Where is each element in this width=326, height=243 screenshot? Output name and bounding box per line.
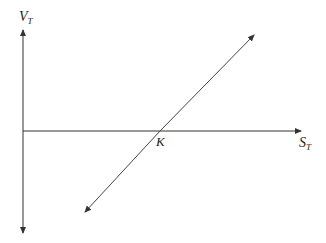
payoff-diagram: VT ST K — [0, 0, 326, 243]
y-axis-label: VT — [19, 9, 34, 26]
strike-label: K — [155, 134, 166, 149]
payoff-line-up — [160, 35, 254, 131]
payoff-line-down — [85, 131, 160, 212]
x-axis-label: ST — [299, 135, 312, 152]
